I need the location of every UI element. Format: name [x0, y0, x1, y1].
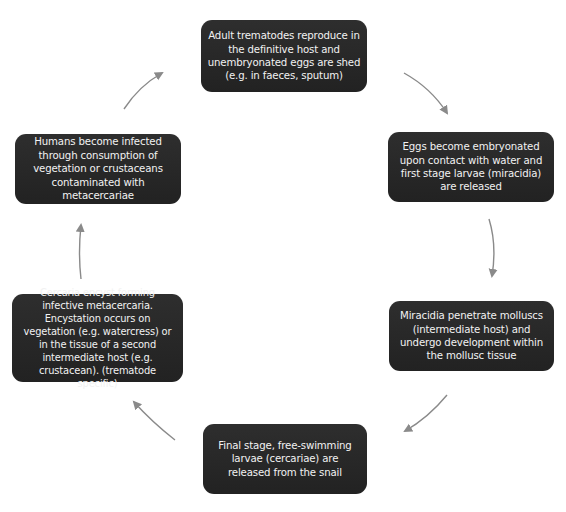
arrow-stage1-to-stage2	[404, 73, 447, 113]
stage-4-label: Final stage, free-swimming larvae (cerca…	[209, 439, 361, 479]
arrow-stage5-to-stage6	[80, 225, 82, 279]
stage-3-miracidia-penetrate: Miracidia penetrate molluscs (intermedia…	[389, 301, 554, 371]
stage-4-cercariae-released: Final stage, free-swimming larvae (cerca…	[203, 424, 367, 494]
arrow-stage2-to-stage3	[489, 219, 494, 276]
arrow-stage3-to-stage4	[405, 395, 447, 431]
stage-1-adult-trematodes: Adult trematodes reproduce in the defini…	[201, 20, 367, 92]
stage-6-label: Humans become infected through consumpti…	[21, 135, 175, 202]
stage-1-label: Adult trematodes reproduce in the defini…	[207, 29, 361, 83]
stage-2-eggs-embryonated: Eggs become embryonated upon contact wit…	[388, 132, 554, 202]
stage-6-humans-infected: Humans become infected through consumpti…	[15, 134, 181, 204]
stage-5-label: Cercaria encyst forming infective metace…	[18, 286, 177, 390]
stage-2-label: Eggs become embryonated upon contact wit…	[394, 140, 548, 194]
stage-5-cercaria-encyst: Cercaria encyst forming infective metace…	[12, 294, 183, 382]
arrow-stage6-to-stage1	[124, 73, 162, 109]
stage-3-label: Miracidia penetrate molluscs (intermedia…	[395, 309, 548, 363]
arrow-stage4-to-stage5	[134, 402, 175, 440]
